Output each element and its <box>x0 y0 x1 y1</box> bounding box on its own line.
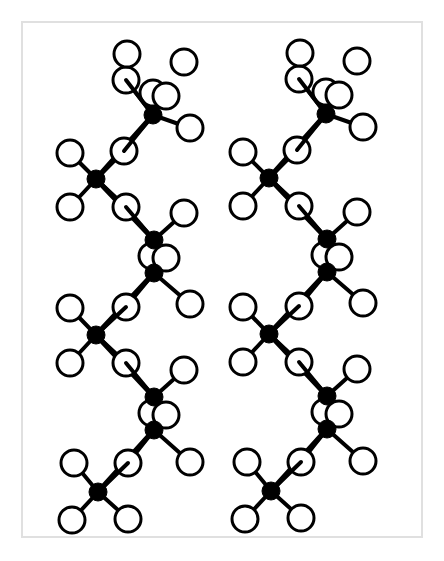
atom-carbon <box>145 388 163 406</box>
atom-hydrogen <box>344 356 370 382</box>
atom-hydrogen <box>57 194 83 220</box>
atom-hydrogen <box>171 357 197 383</box>
atom-hydrogen <box>59 507 85 533</box>
atom-hydrogen <box>57 350 83 376</box>
atom-carbon <box>260 169 278 187</box>
hydrogen-atom-layer <box>57 41 203 533</box>
chain-right <box>230 40 376 532</box>
atom-carbon <box>318 263 336 281</box>
atom-hydrogen <box>61 450 87 476</box>
atom-carbon <box>317 105 335 123</box>
atom-hydrogen <box>171 200 197 226</box>
atom-hydrogen <box>177 291 203 317</box>
atom-hydrogen <box>57 140 83 166</box>
atom-carbon <box>144 106 162 124</box>
atom-carbon <box>145 264 163 282</box>
atom-hydrogen <box>177 115 203 141</box>
molecular-structure-diagram <box>0 0 444 561</box>
atom-carbon <box>89 483 107 501</box>
atom-hydrogen <box>230 294 256 320</box>
atom-carbon <box>87 170 105 188</box>
atom-hydrogen <box>153 83 179 109</box>
atom-carbon <box>145 421 163 439</box>
atom-carbon <box>145 231 163 249</box>
atom-hydrogen <box>177 449 203 475</box>
atom-carbon <box>87 326 105 344</box>
atom-hydrogen <box>232 506 258 532</box>
atom-hydrogen <box>234 449 260 475</box>
atom-carbon <box>318 230 336 248</box>
atom-hydrogen <box>115 506 141 532</box>
atom-hydrogen <box>230 193 256 219</box>
hydrogen-atom-layer <box>230 40 376 532</box>
atom-hydrogen <box>350 290 376 316</box>
atom-carbon <box>260 325 278 343</box>
figure-root <box>0 0 444 561</box>
atom-hydrogen <box>230 349 256 375</box>
atom-hydrogen <box>326 82 352 108</box>
atom-hydrogen <box>350 114 376 140</box>
chain-left <box>57 41 203 533</box>
atom-hydrogen <box>350 448 376 474</box>
atom-hydrogen <box>171 49 197 75</box>
molecule-chains-group <box>57 40 376 533</box>
atom-hydrogen <box>57 295 83 321</box>
atom-hydrogen <box>114 41 140 67</box>
atom-carbon <box>262 482 280 500</box>
atom-hydrogen <box>230 139 256 165</box>
atom-carbon <box>318 387 336 405</box>
atom-hydrogen <box>287 40 313 66</box>
atom-carbon <box>318 420 336 438</box>
atom-hydrogen <box>344 48 370 74</box>
atom-hydrogen <box>344 199 370 225</box>
atom-hydrogen <box>288 505 314 531</box>
